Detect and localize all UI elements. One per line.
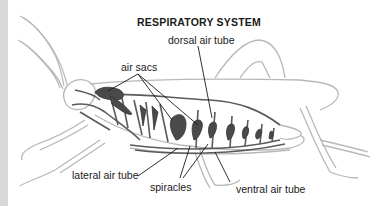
air-sac-1 — [170, 115, 186, 140]
label-dorsal-air-tube: dorsal air tube — [168, 34, 235, 46]
air-sac-4 — [227, 124, 235, 140]
antennae — [18, 16, 67, 89]
grasshopper-illustration — [0, 0, 391, 206]
dorsal-air-tube-leader — [198, 46, 212, 118]
air-sac-head — [95, 87, 123, 100]
air-sac-5 — [242, 127, 248, 139]
label-ventral-air-tube: ventral air tube — [236, 183, 305, 195]
spiracles-leader — [180, 146, 190, 178]
label-air-sacs: air sacs — [121, 61, 157, 73]
label-lateral-air-tube: lateral air tube — [72, 169, 139, 181]
label-spiracles: spiracles — [150, 181, 191, 193]
diagram-title: RESPIRATORY SYSTEM — [137, 16, 261, 28]
air-sac-2 — [192, 120, 202, 140]
ventral-air-tube-leader — [215, 152, 230, 182]
respiratory-system-diagram: RESPIRATORY SYSTEM dorsal air tube air s… — [0, 0, 391, 206]
body-outline — [20, 40, 370, 188]
air-sac-3 — [209, 122, 217, 138]
